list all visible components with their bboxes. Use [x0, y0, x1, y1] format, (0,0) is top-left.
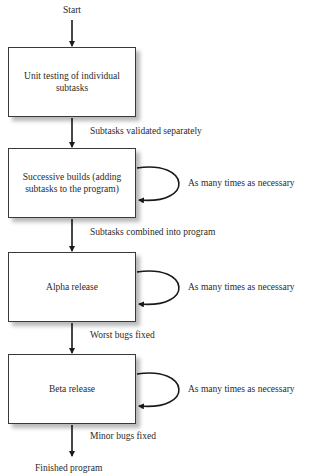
loop-label-successive-builds: As many times as necessary	[188, 178, 295, 189]
step-box-alpha-release: Alpha release	[8, 252, 136, 322]
transition-label-worst-bugs: Worst bugs fixed	[90, 330, 155, 341]
loop-arrow-beta-release	[137, 373, 179, 406]
step-label-alpha-release: Alpha release	[40, 281, 104, 294]
step-box-unit-testing: Unit testing of individual subtasks	[8, 47, 136, 117]
step-label-unit-testing: Unit testing of individual subtasks	[18, 70, 126, 95]
transition-label-validated: Subtasks validated separately	[90, 126, 202, 137]
step-box-successive-builds: Successive builds (adding subtasks to th…	[8, 148, 136, 218]
loop-label-beta-release: As many times as necessary	[188, 384, 295, 395]
loop-label-alpha-release: As many times as necessary	[188, 282, 295, 293]
transition-label-combined: Subtasks combined into program	[90, 227, 215, 238]
loop-arrow-alpha-release	[137, 271, 179, 304]
step-label-successive-builds: Successive builds (adding subtasks to th…	[14, 171, 130, 196]
loop-arrow-successive-builds	[137, 167, 179, 200]
step-label-beta-release: Beta release	[43, 383, 101, 396]
start-label: Start	[63, 5, 81, 16]
end-label: Finished program	[35, 463, 102, 474]
step-box-beta-release: Beta release	[8, 354, 136, 424]
transition-label-minor-bugs: Minor bugs fixed	[90, 431, 156, 442]
